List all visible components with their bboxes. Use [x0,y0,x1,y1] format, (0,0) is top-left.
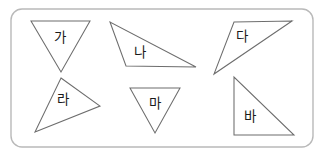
triangle-label-ga: 가 [54,29,66,45]
triangle-label-da: 다 [236,28,249,44]
triangle-worksheet-figure: 가 나 다 라 마 바 [0,0,324,155]
triangle-label-ma: 마 [149,95,162,111]
triangle-label-na: 나 [134,44,146,60]
figure-canvas: 가 나 다 라 마 바 [0,0,324,155]
triangle-label-ra: 라 [57,91,70,107]
triangle-label-ba: 바 [244,108,257,124]
